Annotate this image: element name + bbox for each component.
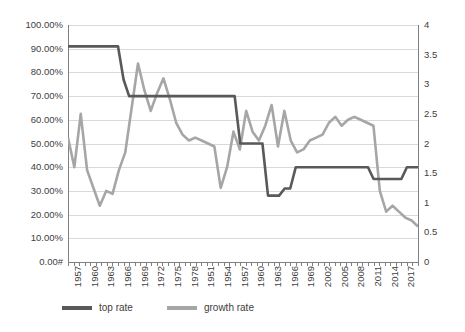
x-axis-tick-mark: [324, 262, 325, 266]
x-axis-tick-mark: [368, 262, 369, 266]
x-axis-tick-mark: [151, 262, 152, 266]
x-axis-tick-label: 2011: [372, 266, 383, 286]
x-axis-tick-mark: [329, 262, 330, 266]
legend-label: top rate: [99, 303, 133, 313]
left-axis-tick-label: 100.00%: [0, 19, 63, 30]
right-axis-tick-label: 0: [424, 256, 454, 267]
x-axis-tick-label: 1969: [139, 266, 150, 287]
right-axis-line: [418, 25, 419, 262]
x-axis-tick-mark: [146, 262, 147, 266]
x-axis-tick-label: 1978: [189, 266, 200, 287]
series-lines: [68, 25, 418, 262]
x-axis-tick-label: 1957: [239, 266, 250, 287]
right-axis-tick-label: 2.5: [424, 108, 454, 119]
right-axis-tick-label: 0.5: [424, 226, 454, 237]
x-axis-tick-mark: [68, 262, 69, 266]
x-axis-tick-mark: [340, 262, 341, 266]
x-axis-tick-mark: [318, 262, 319, 266]
x-axis-tick-mark: [79, 262, 80, 266]
x-axis-tick-label: 2002: [322, 266, 333, 287]
x-axis-tick-mark: [129, 262, 130, 266]
left-axis-tick-label: 0.00#: [0, 256, 63, 267]
x-axis-tick-mark: [207, 262, 208, 266]
x-axis-tick-mark: [201, 262, 202, 266]
x-axis-tick-mark: [90, 262, 91, 266]
x-axis-tick-mark: [140, 262, 141, 266]
x-axis-tick-mark: [390, 262, 391, 266]
x-axis-tick-mark: [246, 262, 247, 266]
x-axis-tick-mark: [235, 262, 236, 266]
left-axis-tick-label: 90.00%: [0, 43, 63, 54]
x-axis-tick-label: 1975: [172, 266, 183, 287]
x-axis-tick-mark: [101, 262, 102, 266]
x-axis-tick-label: 1960: [89, 266, 100, 287]
x-axis-tick-mark: [396, 262, 397, 266]
x-axis-tick-mark: [357, 262, 358, 266]
x-axis-tick-mark: [218, 262, 219, 266]
x-axis-tick-mark: [274, 262, 275, 266]
x-axis-tick-mark: [312, 262, 313, 266]
right-axis-tick-label: 2: [424, 138, 454, 149]
x-axis-tick-mark: [251, 262, 252, 266]
x-axis-tick-mark: [118, 262, 119, 266]
right-axis-tick-label: 1: [424, 197, 454, 208]
x-axis-tick-label: 2014: [389, 266, 400, 287]
x-axis-tick-label: 2005: [339, 266, 350, 287]
legend-swatch: [167, 306, 197, 310]
series-line-growth-rate: [68, 64, 418, 227]
x-axis-tick-mark: [212, 262, 213, 266]
x-axis-tick-label: 1951: [205, 266, 216, 287]
x-axis-tick-mark: [401, 262, 402, 266]
x-axis-tick-mark: [407, 262, 408, 266]
x-axis-tick-label: 1960: [255, 266, 266, 287]
x-axis-tick-mark: [257, 262, 258, 266]
left-axis-tick-label: 10.00%: [0, 232, 63, 243]
x-axis-tick-mark: [185, 262, 186, 266]
x-axis-tick-mark: [124, 262, 125, 266]
left-axis-tick-label: 20.00%: [0, 209, 63, 220]
x-axis-tick-mark: [179, 262, 180, 266]
x-axis-tick-mark: [374, 262, 375, 266]
x-axis-tick-mark: [135, 262, 136, 266]
x-axis-tick-label: 1972: [155, 266, 166, 287]
x-axis-tick-mark: [107, 262, 108, 266]
left-axis-tick-label: 50.00%: [0, 138, 63, 149]
x-axis-tick-label: 2017: [405, 266, 416, 287]
legend-item-top-rate[interactable]: top rate: [62, 303, 133, 313]
x-axis-tick-mark: [335, 262, 336, 266]
x-axis-tick-mark: [296, 262, 297, 266]
x-axis-tick-mark: [279, 262, 280, 266]
x-axis-tick-label: 1954: [222, 266, 233, 287]
chart-container: 100.00%90.00%80.00%70.00%60.00%50.00%40.…: [0, 0, 465, 332]
x-axis-tick-label: 1963: [105, 266, 116, 287]
x-axis-tick-mark: [307, 262, 308, 266]
left-axis-tick-label: 40.00%: [0, 161, 63, 172]
left-axis-tick-label: 30.00%: [0, 185, 63, 196]
x-axis-tick-mark: [412, 262, 413, 266]
x-axis-tick-label: 1969: [305, 266, 316, 287]
x-axis-tick-mark: [385, 262, 386, 266]
x-axis-tick-mark: [268, 262, 269, 266]
legend-item-growth-rate[interactable]: growth rate: [167, 303, 254, 313]
x-axis-tick-mark: [190, 262, 191, 266]
x-axis-tick-mark: [351, 262, 352, 266]
legend-swatch: [62, 306, 92, 310]
x-axis-tick-label: 1966: [289, 266, 300, 287]
right-axis-tick-label: 1.5: [424, 167, 454, 178]
left-axis-tick-label: 80.00%: [0, 66, 63, 77]
x-axis-tick-mark: [346, 262, 347, 266]
x-axis-tick-mark: [157, 262, 158, 266]
x-axis-tick-mark: [74, 262, 75, 266]
plot-area: [68, 25, 418, 262]
x-axis-tick-mark: [290, 262, 291, 266]
left-axis-tick-label: 70.00%: [0, 90, 63, 101]
chart-legend: top rategrowth rate: [62, 303, 254, 313]
x-axis-tick-mark: [229, 262, 230, 266]
x-axis-tick-mark: [196, 262, 197, 266]
left-axis-tick-label: 60.00%: [0, 114, 63, 125]
right-axis-tick-label: 4: [424, 19, 454, 30]
x-axis-tick-label: 1957: [72, 266, 83, 287]
x-axis-tick-mark: [174, 262, 175, 266]
right-axis-tick-label: 3.5: [424, 49, 454, 60]
legend-label: growth rate: [204, 303, 254, 313]
